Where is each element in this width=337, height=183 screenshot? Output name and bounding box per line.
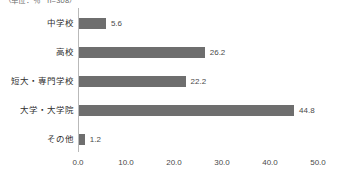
x-axis-tick-label: 50.0	[298, 158, 337, 167]
bar	[79, 76, 186, 87]
bar-value-label: 5.6	[111, 17, 122, 30]
x-axis-tick-label: 10.0	[106, 158, 146, 167]
bar-row: 大学・大学院44.8	[0, 105, 337, 116]
x-axis-tick-label: 30.0	[202, 158, 242, 167]
x-axis-tick-label: 0.0	[58, 158, 98, 167]
bar-category-label: 中学校	[0, 16, 74, 30]
x-axis-tick-label: 40.0	[250, 158, 290, 167]
bar-row: その他1.2	[0, 134, 337, 145]
bar-chart: 中学校5.6高校26.2短大・専門学校22.2大学・大学院44.8その他1.2 …	[0, 0, 337, 183]
bar-value-label: 1.2	[90, 133, 101, 146]
bar-value-label: 26.2	[210, 46, 226, 59]
bar-category-label: 高校	[0, 45, 74, 59]
bar	[79, 18, 106, 29]
bar-category-label: 短大・専門学校	[0, 74, 74, 88]
bar	[79, 105, 294, 116]
bar-category-label: その他	[0, 132, 74, 146]
x-axis-tick-label: 20.0	[154, 158, 194, 167]
bar-value-label: 44.8	[299, 104, 315, 117]
bar-row: 高校26.2	[0, 47, 337, 58]
bar	[79, 134, 85, 145]
bar-value-label: 22.2	[191, 75, 207, 88]
bar-row: 短大・専門学校22.2	[0, 76, 337, 87]
bar	[79, 47, 205, 58]
bar-category-label: 大学・大学院	[0, 103, 74, 117]
bar-row: 中学校5.6	[0, 18, 337, 29]
